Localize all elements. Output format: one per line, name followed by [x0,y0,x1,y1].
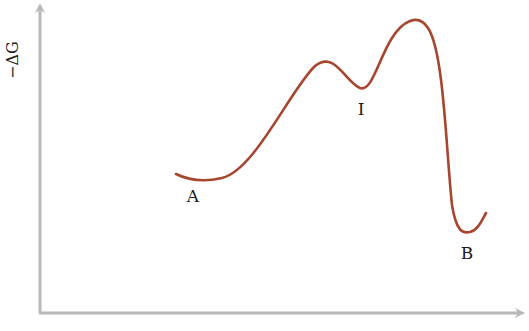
y-axis-label: −ΔG [3,41,22,79]
point-label-a: A [186,186,200,206]
point-label-i: I [358,99,365,119]
point-label-b: B [461,243,474,263]
energy-diagram: −ΔG A I B [0,0,529,331]
energy-curve [176,20,486,233]
